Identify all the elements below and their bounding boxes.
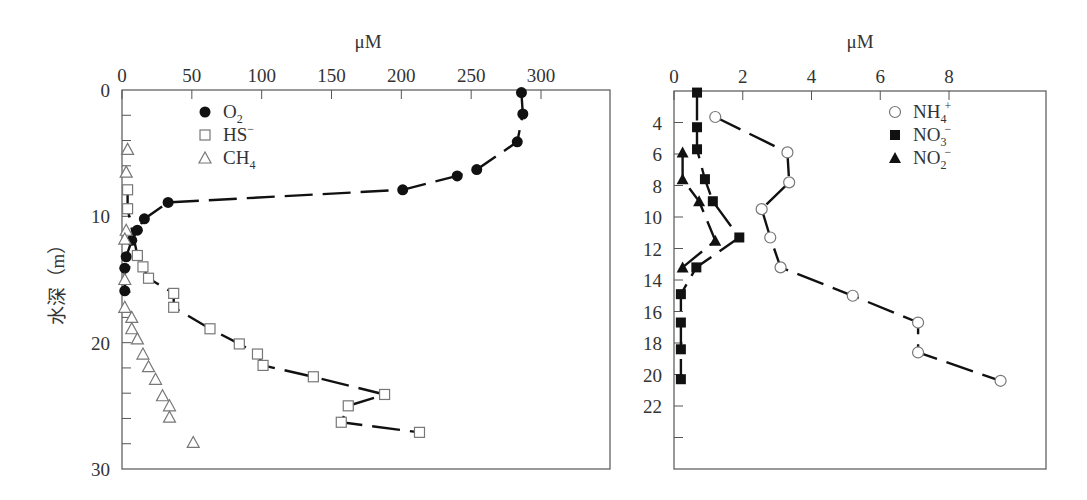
data-point-o2 xyxy=(516,87,527,98)
data-point-no3- xyxy=(676,374,686,384)
legend-label-main: NO xyxy=(913,124,940,145)
data-point-hs- xyxy=(144,273,154,283)
x-tick-label: 8 xyxy=(944,66,954,87)
data-point-hs- xyxy=(308,372,318,382)
x-tick-label: 100 xyxy=(247,65,276,86)
data-point-o2 xyxy=(517,109,528,120)
data-point-ch4 xyxy=(119,274,131,285)
legend-marker-no3- xyxy=(890,130,900,140)
legend-label-sup: − xyxy=(247,122,254,136)
data-point-hs- xyxy=(380,389,390,399)
legend-label-sup: − xyxy=(944,122,951,136)
y-tick-label: 30 xyxy=(91,459,110,480)
data-point-no3- xyxy=(692,88,702,98)
data-point-ch4 xyxy=(163,400,175,411)
y-tick-label: 20 xyxy=(91,333,110,354)
data-point-hs- xyxy=(138,262,148,272)
y-tick-label: 6 xyxy=(653,144,663,165)
data-point-no3- xyxy=(708,196,718,206)
data-point-ch4 xyxy=(163,411,175,422)
x-tick-label: 50 xyxy=(182,65,201,86)
data-point-no3- xyxy=(676,289,686,299)
series-line-o2 xyxy=(125,93,523,291)
data-point-no2- xyxy=(677,173,689,184)
x-tick-label: 300 xyxy=(527,65,556,86)
y-tick-label: 14 xyxy=(643,270,663,291)
y-tick-label: 18 xyxy=(643,333,662,354)
data-point-hs- xyxy=(169,302,179,312)
plot-frame xyxy=(674,91,1046,469)
data-point-o2 xyxy=(163,197,174,208)
data-point-ch4 xyxy=(126,323,138,334)
right-panel-nitrogen-species: 02468μM46810121416182022NH4+NO3−NO2− xyxy=(643,31,1046,469)
data-point-no3- xyxy=(700,174,710,184)
x-tick-label: 4 xyxy=(807,66,817,87)
y-tick-label: 12 xyxy=(643,239,662,260)
data-point-no3- xyxy=(692,144,702,154)
data-point-hs- xyxy=(343,401,353,411)
y-tick-label: 10 xyxy=(91,206,110,227)
legend-label-o2: O2 xyxy=(223,101,243,126)
legend-label-main: CH xyxy=(223,147,250,168)
legend-label-sub: 2 xyxy=(940,158,946,172)
data-point-hs- xyxy=(252,349,262,359)
legend-label-main: NH xyxy=(913,101,941,122)
data-point-hs- xyxy=(123,204,133,214)
series-line-nh4+ xyxy=(715,117,1000,381)
data-point-ch4 xyxy=(119,301,131,312)
legend-label-no2-: NO2− xyxy=(913,145,951,172)
data-point-ch4 xyxy=(150,373,162,384)
data-point-o2 xyxy=(452,170,463,181)
y-tick-label: 4 xyxy=(653,113,663,134)
data-point-nh4+ xyxy=(784,177,795,188)
data-point-no2- xyxy=(709,235,721,246)
x-axis-title: μM xyxy=(846,31,873,52)
data-point-o2 xyxy=(471,164,482,175)
data-point-hs- xyxy=(414,427,424,437)
x-tick-label: 6 xyxy=(876,66,886,87)
data-point-o2 xyxy=(139,213,150,224)
y-tick-label: 10 xyxy=(643,207,662,228)
series-line-no3- xyxy=(681,93,739,380)
legend-marker-o2 xyxy=(200,107,211,118)
depth-profile-figure: 050100150200250300μM0102030水深（m）O2HS−CH4… xyxy=(0,0,1087,500)
data-point-nh4+ xyxy=(710,111,721,122)
data-point-nh4+ xyxy=(995,375,1006,386)
data-point-no3- xyxy=(676,344,686,354)
y-tick-label: 20 xyxy=(643,365,662,386)
data-point-ch4 xyxy=(187,436,199,447)
legend-marker-ch4 xyxy=(199,152,211,163)
x-tick-label: 2 xyxy=(738,66,748,87)
data-point-nh4+ xyxy=(756,204,767,215)
data-point-o2 xyxy=(397,184,408,195)
data-point-ch4 xyxy=(157,390,169,401)
data-point-o2 xyxy=(119,263,130,274)
data-point-hs- xyxy=(169,288,179,298)
legend-marker-no2- xyxy=(889,152,901,163)
data-point-nh4+ xyxy=(765,232,776,243)
data-point-nh4+ xyxy=(782,147,793,158)
data-point-no3- xyxy=(692,122,702,132)
legend-marker-hs- xyxy=(200,130,210,140)
data-point-nh4+ xyxy=(913,347,924,358)
data-point-hs- xyxy=(132,250,142,260)
x-tick-label: 0 xyxy=(117,65,127,86)
x-tick-label: 0 xyxy=(669,66,679,87)
legend-label-main: NO xyxy=(913,147,940,168)
legend-marker-nh4+ xyxy=(890,107,901,118)
data-point-nh4+ xyxy=(913,317,924,328)
data-point-no2- xyxy=(677,146,689,157)
data-point-hs- xyxy=(336,417,346,427)
x-axis-title: μM xyxy=(354,31,381,52)
y-tick-label: 0 xyxy=(101,80,111,101)
data-point-nh4+ xyxy=(775,262,786,273)
data-point-ch4 xyxy=(122,143,134,154)
legend-label-main: HS xyxy=(223,124,247,145)
y-tick-label: 16 xyxy=(643,302,662,323)
data-point-hs- xyxy=(205,324,215,334)
data-point-o2 xyxy=(119,285,130,296)
plot-frame xyxy=(122,90,610,469)
y-axis-title: 水深（m） xyxy=(47,235,68,326)
legend-label-ch4: CH4 xyxy=(223,147,255,172)
left-panel-o2-hs-ch4: 050100150200250300μM0102030水深（m）O2HS−CH4 xyxy=(47,31,610,480)
